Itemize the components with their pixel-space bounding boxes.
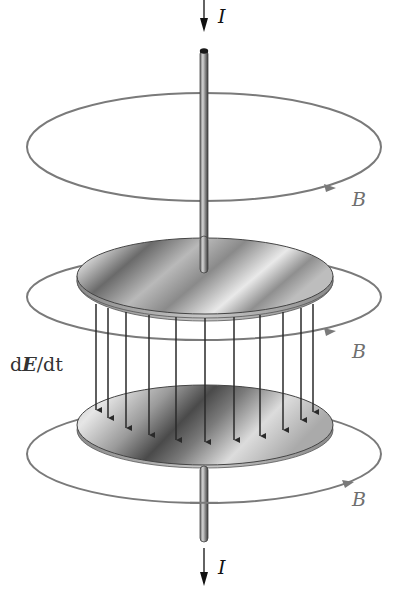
displacement-current-label: dE/dt <box>10 355 63 374</box>
magnetic-field-label-middle: B <box>352 342 366 361</box>
current-label-bottom: I <box>218 558 226 577</box>
current-label-top: I <box>218 7 226 26</box>
electric-field-symbol: E <box>22 353 36 375</box>
loop-direction-arrow-icon <box>324 328 336 336</box>
capacitor-plate-upper <box>77 236 333 321</box>
current-arrow-top <box>200 0 208 32</box>
capacitor-displacement-current-diagram <box>0 0 395 594</box>
magnetic-field-label-top: B <box>352 190 366 209</box>
displacement-prefix: d <box>10 353 22 375</box>
magnetic-field-label-bottom: B <box>352 490 366 509</box>
displacement-suffix: /dt <box>37 353 63 375</box>
wire-lower <box>200 466 208 542</box>
current-arrow-bottom <box>200 548 208 586</box>
